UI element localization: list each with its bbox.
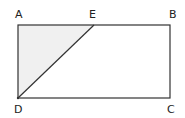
label-c: C	[167, 103, 175, 116]
vertex-d-dot	[17, 97, 19, 99]
label-d: D	[14, 103, 22, 116]
label-b: B	[169, 8, 177, 21]
geometry-diagram: A E B D C	[0, 0, 185, 118]
label-a: A	[15, 8, 23, 21]
label-e: E	[89, 8, 96, 21]
